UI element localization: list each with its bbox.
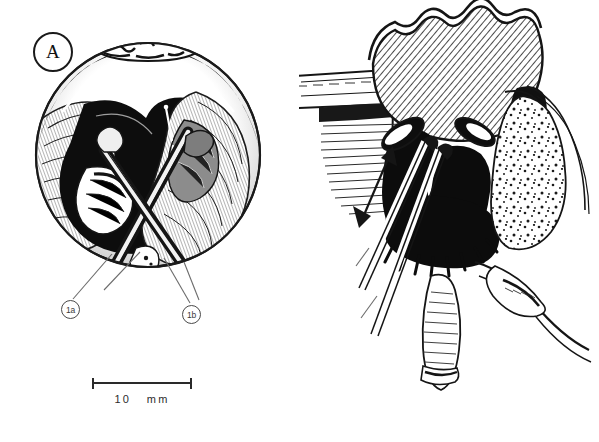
panel-a-prime: A' 2a 2b 10 mm <box>299 0 599 442</box>
scale-bar-left-line <box>92 382 192 384</box>
figure-canvas: A 1a 1b 10 mm <box>0 0 599 442</box>
palate-arc <box>475 262 591 362</box>
scale-bar-left: 10 mm <box>92 378 192 405</box>
scale-bar-left-tick-start <box>92 378 94 389</box>
panel-label-a: A <box>33 32 73 72</box>
panel-a-prime-artwork <box>299 0 599 442</box>
measuring-tag <box>130 246 159 274</box>
soft-tissue-column-lower <box>421 275 460 390</box>
scale-bar-left-caption: 10 mm <box>92 393 192 405</box>
instrument-label-1b: 1b <box>182 305 201 324</box>
panel-a: A 1a 1b 10 mm <box>0 0 300 442</box>
operative-field-circle <box>32 35 260 300</box>
scale-bar-left-tick-end <box>190 378 192 389</box>
instrument-label-1a: 1a <box>61 300 80 319</box>
scale-bar-left-graphic <box>92 378 192 388</box>
